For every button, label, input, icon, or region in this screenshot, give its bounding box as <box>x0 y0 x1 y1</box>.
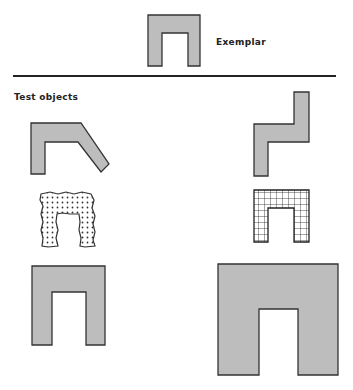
dotted-arch-shape <box>40 192 95 247</box>
small-arch-shape <box>32 266 105 345</box>
zigzag-shape <box>254 92 309 176</box>
diagram-canvas <box>0 0 353 390</box>
section-divider <box>13 75 336 77</box>
exemplar-label: Exemplar <box>216 37 266 47</box>
bent-arch-shape <box>31 123 109 174</box>
exemplar-arch-shape <box>148 15 200 66</box>
grid-arch-shape <box>254 190 309 242</box>
test-objects-label: Test objects <box>14 92 78 102</box>
large-arch-shape <box>218 264 338 375</box>
